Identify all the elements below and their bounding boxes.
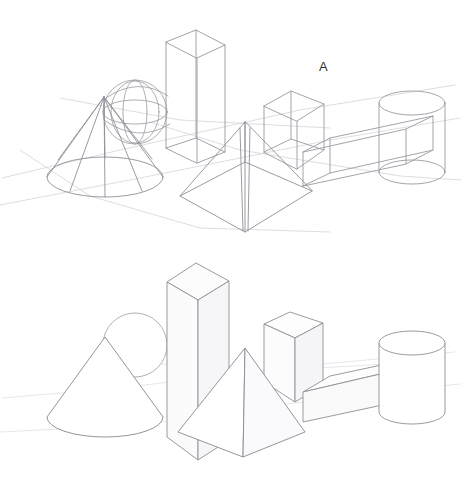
panel-b-artwork xyxy=(0,240,462,481)
shape-cylinder-a xyxy=(379,91,445,184)
shape-cube-a xyxy=(264,91,324,169)
shape-pyramid-a xyxy=(180,122,312,232)
panel-a-wireframe: A xyxy=(0,0,462,240)
shape-cylinder-b xyxy=(379,331,445,424)
panel-b-opaque: B xyxy=(0,240,462,481)
panel-a-label: A xyxy=(319,59,328,74)
shape-tall-prism-a xyxy=(166,30,225,163)
ground-construction-lines-a xyxy=(0,85,461,232)
shape-cone-a xyxy=(47,97,163,197)
drawing-sheet: A xyxy=(0,0,462,481)
panel-a-artwork xyxy=(0,0,462,240)
